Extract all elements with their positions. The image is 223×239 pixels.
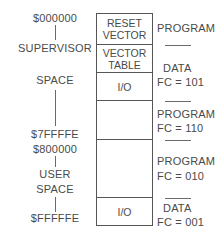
connector-line (55, 25, 56, 40)
connector-line (55, 156, 56, 167)
supervisor-space-label-line2: SPACE (0, 74, 110, 86)
separator-line (165, 140, 191, 141)
memory-block-user-program (97, 140, 152, 198)
fc-label-program-reset: PROGRAM (157, 22, 215, 34)
supervisor-end-address-label: $7FFFFE (0, 128, 110, 140)
separator-line (165, 198, 191, 199)
separator-line (165, 45, 191, 46)
fc-code-010: FC = 010 (157, 170, 204, 182)
block-label: I/O (117, 206, 131, 218)
memory-block-supervisor-io: I/O (97, 73, 152, 101)
block-label: VECTOR (103, 29, 147, 41)
connector-line (55, 90, 56, 126)
user-space-label-line2: SPACE (0, 183, 110, 195)
memory-block-vector-table: VECTOR TABLE (97, 45, 152, 73)
start-address-label: $000000 (0, 12, 110, 24)
fc-label-supervisor-program: PROGRAM (157, 108, 215, 120)
memory-block-reset-vector: RESET VECTOR (97, 14, 152, 45)
block-label: TABLE (108, 59, 140, 71)
block-label: I/O (117, 81, 131, 93)
fc-code-101: FC = 101 (157, 76, 204, 88)
memory-block-supervisor-program (97, 101, 152, 140)
fc-code-110: FC = 110 (157, 122, 203, 134)
connector-line (55, 197, 56, 212)
memory-block-user-io: I/O (97, 198, 152, 225)
fc-label-user-program: PROGRAM (157, 155, 215, 167)
user-space-label-line1: USER (0, 168, 110, 180)
fc-label-user-data: DATA (163, 202, 192, 214)
memory-map: RESET VECTOR VECTOR TABLE I/O I/O (96, 13, 153, 226)
end-address-label: $FFFFFE (0, 212, 110, 224)
separator-line (165, 101, 191, 102)
block-label: RESET (107, 17, 142, 29)
fc-label-supervisor-data: DATA (163, 62, 192, 74)
block-label: VECTOR (103, 47, 147, 59)
supervisor-space-label-line1: SUPERVISOR (0, 42, 110, 54)
user-start-address-label: $800000 (0, 143, 110, 155)
fc-code-001: FC = 001 (157, 216, 204, 228)
